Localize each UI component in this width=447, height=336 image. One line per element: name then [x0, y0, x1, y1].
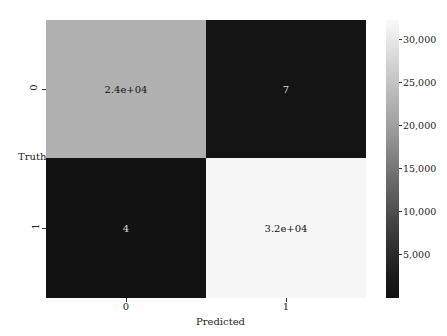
tick-label: 20,000 — [403, 120, 436, 131]
heatmap-area: 2.4e+04 7 4 3.2e+04 — [46, 20, 366, 298]
ytick-mark-0 — [42, 89, 46, 90]
tick-label: 5,000 — [403, 249, 430, 260]
xtick-label-1: 1 — [276, 301, 296, 312]
tick-label: 30,000 — [403, 34, 436, 45]
colorbar — [386, 20, 399, 298]
tick-mark — [399, 168, 402, 169]
tick-label: 25,000 — [403, 77, 436, 88]
cell-value: 2.4e+04 — [105, 84, 148, 95]
cell-value: 4 — [123, 223, 129, 234]
tick-mark — [399, 254, 402, 255]
cell-value: 7 — [283, 84, 289, 95]
ytick-mark-1 — [42, 228, 46, 229]
cell-truth0-pred0: 2.4e+04 — [46, 20, 206, 158]
cell-truth0-pred1: 7 — [206, 20, 366, 158]
x-axis-title: Predicted — [196, 316, 245, 327]
tick-label: 15,000 — [403, 163, 436, 174]
colorbar-tick-5000: 5,000 — [399, 249, 430, 260]
ytick-label-1: 1 — [30, 223, 41, 229]
tick-mark — [399, 39, 402, 40]
colorbar-tick-20000: 20,000 — [399, 120, 436, 131]
cell-truth1-pred0: 4 — [46, 158, 206, 298]
tick-mark — [399, 125, 402, 126]
ytick-label-0: 0 — [28, 84, 39, 90]
xtick-label-0: 0 — [116, 301, 136, 312]
colorbar-tick-30000: 30,000 — [399, 34, 436, 45]
colorbar-tick-15000: 15,000 — [399, 163, 436, 174]
colorbar-tick-10000: 10,000 — [399, 206, 436, 217]
colorbar-tick-25000: 25,000 — [399, 77, 436, 88]
tick-mark — [399, 211, 402, 212]
cell-value: 3.2e+04 — [265, 223, 308, 234]
tick-mark — [399, 82, 402, 83]
tick-label: 10,000 — [403, 206, 436, 217]
y-axis-title: Truth — [18, 151, 46, 162]
cell-truth1-pred1: 3.2e+04 — [206, 158, 366, 298]
